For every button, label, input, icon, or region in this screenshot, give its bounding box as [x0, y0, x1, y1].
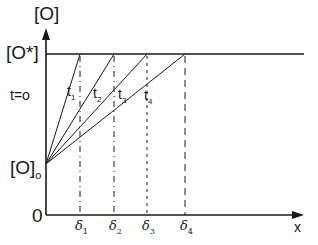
- depth-label-subscript: 1: [83, 227, 88, 236]
- line-label-t3: t3: [118, 87, 126, 101]
- initial-concentration-label: [O]o: [10, 158, 41, 177]
- line-label-t1: t1: [67, 84, 75, 98]
- profile-line-t4: [46, 54, 185, 164]
- x-axis-arrow-icon: [292, 211, 304, 219]
- initial-label-subscript: o: [35, 169, 41, 181]
- x-axis-label: x: [294, 220, 301, 234]
- y-axis-arrow-icon: [42, 28, 50, 40]
- line-label-subscript: 2: [97, 95, 101, 104]
- diagram-canvas: [0, 0, 318, 245]
- time-zero-label: t=o: [10, 88, 30, 102]
- initial-label-text: [O]: [10, 157, 35, 178]
- depth-label-subscript: 3: [150, 227, 155, 236]
- depth-label-4: δ4: [180, 219, 193, 232]
- saturation-label: [O*]: [6, 43, 39, 62]
- line-label-t4: t4: [144, 88, 152, 102]
- profile-line-t3: [46, 54, 147, 164]
- line-label-subscript: 4: [148, 97, 152, 106]
- line-label-t2: t2: [93, 86, 101, 100]
- profile-line-t1: [46, 54, 80, 164]
- depth-label-subscript: 2: [117, 227, 122, 236]
- depth-label-text: δ: [109, 218, 117, 233]
- depth-label-text: δ: [142, 218, 150, 233]
- depth-label-text: δ: [180, 218, 188, 233]
- origin-label: 0: [32, 206, 43, 225]
- line-label-subscript: 3: [122, 96, 126, 105]
- line-label-subscript: 1: [71, 93, 75, 102]
- depth-label-subscript: 4: [188, 227, 193, 236]
- depth-label-3: δ3: [142, 219, 155, 232]
- y-axis-label: [O]: [34, 4, 59, 23]
- depth-label-text: δ: [75, 218, 83, 233]
- depth-label-1: δ1: [75, 219, 88, 232]
- depth-label-2: δ2: [109, 219, 122, 232]
